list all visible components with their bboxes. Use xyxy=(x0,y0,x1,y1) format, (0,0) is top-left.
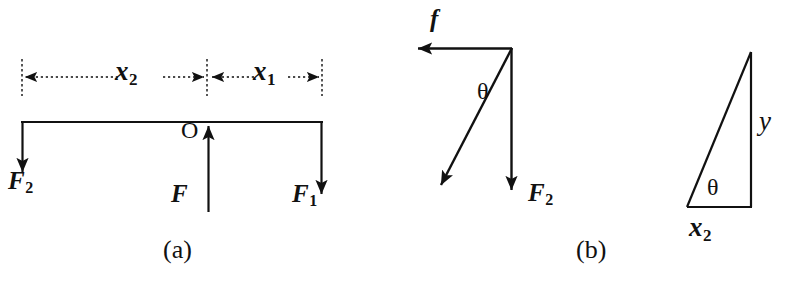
dimension-label-x2-subscript: 2 xyxy=(129,70,138,89)
pivot-label-O: O xyxy=(181,118,198,142)
dimension-label-x1-subscript: 1 xyxy=(267,70,276,89)
force-label-F1: F1 xyxy=(292,181,317,209)
triangle-label-y-symbol: y xyxy=(759,106,771,136)
triangle-label-x2-subscript: 2 xyxy=(703,226,712,245)
triangle-label-y: y xyxy=(759,108,771,138)
caption-a: (a) xyxy=(163,237,192,263)
force-label-f-subscript xyxy=(438,17,439,34)
dimension-label-x2-symbol: x xyxy=(115,56,129,86)
force-label-F: F xyxy=(171,181,188,209)
triangle-hypotenuse xyxy=(687,52,751,207)
force-label-F-symbol: F xyxy=(171,180,188,207)
angle-label-theta-panel-c: θ xyxy=(707,175,719,199)
figure-vector-graphics xyxy=(0,0,788,290)
physics-figure: x2 x1 O F2 F F1 (a) f θ F2 (b) y θ x2 xyxy=(0,0,788,290)
panel-b-force-label-F2-subscript: 2 xyxy=(545,191,554,208)
panel-b-force-label-F2-symbol: F xyxy=(528,179,545,206)
triangle-label-x2: x2 xyxy=(689,214,712,244)
force-label-F-subscript xyxy=(188,192,189,209)
resultant-force-arrow xyxy=(441,48,512,185)
force-label-F2-subscript: 2 xyxy=(25,179,34,196)
dimension-label-x1-symbol: x xyxy=(253,56,267,86)
panel-c-graphics xyxy=(687,52,752,207)
triangle-label-x2-symbol: x xyxy=(689,212,703,242)
force-label-F2-symbol: F xyxy=(8,167,25,194)
force-label-F2: F2 xyxy=(8,168,33,196)
dimension-label-x2: x2 xyxy=(115,58,138,88)
force-label-f: f xyxy=(430,6,439,34)
angle-label-theta-panel-b: θ xyxy=(477,79,489,103)
panel-b-graphics xyxy=(418,48,512,190)
force-label-F1-subscript: 1 xyxy=(309,192,318,209)
dimension-label-x1: x1 xyxy=(253,58,276,88)
panel-b-force-label-F2: F2 xyxy=(528,180,553,208)
force-label-F1-symbol: F xyxy=(292,180,309,207)
caption-b: (b) xyxy=(576,237,606,263)
